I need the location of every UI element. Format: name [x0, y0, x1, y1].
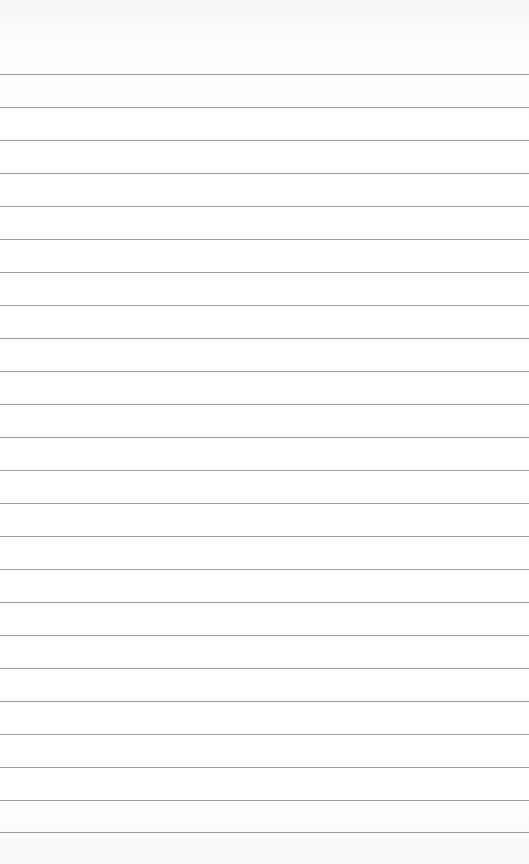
ruled-line: [0, 305, 529, 306]
ruled-line: [0, 635, 529, 636]
ruled-line: [0, 734, 529, 735]
ruled-line: [0, 800, 529, 801]
ruled-line: [0, 74, 529, 75]
ruled-line: [0, 602, 529, 603]
ruled-line: [0, 371, 529, 372]
ruled-line: [0, 140, 529, 141]
ruled-line: [0, 107, 529, 108]
ruled-line: [0, 503, 529, 504]
ruled-line: [0, 272, 529, 273]
ruled-line: [0, 569, 529, 570]
ruled-line: [0, 437, 529, 438]
ruled-line: [0, 173, 529, 174]
ruled-line: [0, 404, 529, 405]
lined-paper-sheet: [0, 0, 529, 864]
ruled-line: [0, 536, 529, 537]
ruled-line: [0, 832, 529, 833]
ruled-line: [0, 668, 529, 669]
ruled-line: [0, 338, 529, 339]
ruled-line: [0, 206, 529, 207]
ruled-line: [0, 470, 529, 471]
ruled-line: [0, 239, 529, 240]
ruled-line: [0, 767, 529, 768]
ruled-line: [0, 701, 529, 702]
